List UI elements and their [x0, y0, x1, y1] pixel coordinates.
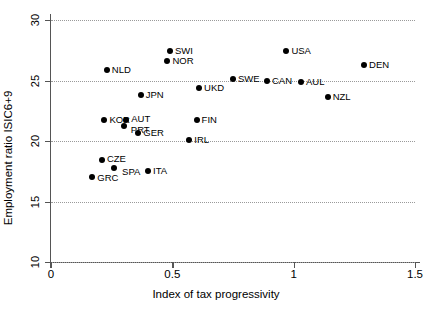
gridline-y [51, 20, 415, 21]
data-point-label: UKD [204, 83, 224, 93]
y-tick-label: 25 [29, 75, 41, 87]
y-tick-label: 30 [29, 14, 41, 26]
gridline-y [51, 262, 415, 263]
data-point [99, 157, 105, 163]
data-point-label: AUT [131, 115, 150, 125]
data-point-label: NZL [333, 93, 351, 103]
y-tick [45, 141, 51, 142]
gridline-y [51, 141, 415, 142]
data-point-label: SPA [122, 167, 140, 177]
y-axis-title: Employment ratio ISIC6+9 [2, 90, 14, 225]
gridline-y [51, 202, 415, 203]
y-tick [45, 202, 51, 203]
x-tick-label: 0.5 [164, 268, 180, 280]
scatter-chart: SWINORNLDUSADENSWECANAULUKDJPNNZLKORAUTP… [0, 0, 432, 315]
data-point-label: USA [291, 47, 311, 57]
data-point [135, 130, 141, 136]
data-point-label: SWE [238, 75, 260, 85]
data-point-label: NLD [112, 65, 131, 75]
y-tick [45, 20, 51, 21]
data-point [298, 79, 304, 85]
data-point-label: AUL [306, 77, 324, 87]
data-point [167, 48, 173, 54]
data-point [145, 168, 151, 174]
data-point [325, 94, 331, 100]
x-axis-title: Index of tax progressivity [0, 288, 432, 300]
data-point [111, 165, 117, 171]
y-tick [45, 81, 51, 82]
data-point-label: GER [143, 128, 164, 138]
data-point [283, 48, 289, 54]
data-point [361, 62, 367, 68]
data-point [138, 92, 144, 98]
data-point-label: ITA [153, 167, 167, 177]
data-point [121, 123, 127, 129]
data-point-label: CZE [107, 155, 126, 165]
data-point-label: GRC [97, 174, 118, 184]
data-point-label: JPN [146, 90, 164, 100]
data-point [264, 78, 270, 84]
data-point-label: CAN [272, 76, 292, 86]
data-point-label: IRL [194, 135, 209, 145]
x-tick-label: 1.5 [407, 268, 423, 280]
data-point [164, 58, 170, 64]
data-point-label: FIN [202, 116, 217, 126]
y-tick-label: 15 [29, 196, 41, 208]
y-tick-label: 20 [29, 135, 41, 147]
data-point [196, 85, 202, 91]
data-point [101, 117, 107, 123]
data-point [89, 174, 95, 180]
data-point-label: DEN [369, 60, 389, 70]
data-point [194, 117, 200, 123]
y-tick-label: 10 [29, 256, 41, 268]
x-tick-label: 0 [48, 268, 54, 280]
data-point [230, 76, 236, 82]
plot-area: SWINORNLDUSADENSWECANAULUKDJPNNZLKORAUTP… [51, 20, 415, 262]
x-tick-label: 1 [290, 268, 296, 280]
data-point [186, 137, 192, 143]
data-point-label: NOR [172, 56, 193, 66]
data-point [104, 67, 110, 73]
